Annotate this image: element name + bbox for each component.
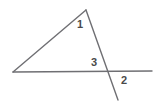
geometry-diagram-canvas: 1 3 2	[0, 0, 159, 108]
horizontal-base-line	[13, 71, 152, 72]
angle-label-3: 3	[91, 56, 97, 68]
geometry-figure: 1 3 2	[0, 0, 159, 108]
angle-label-2: 2	[121, 74, 127, 86]
angle-label-1: 1	[77, 18, 83, 30]
